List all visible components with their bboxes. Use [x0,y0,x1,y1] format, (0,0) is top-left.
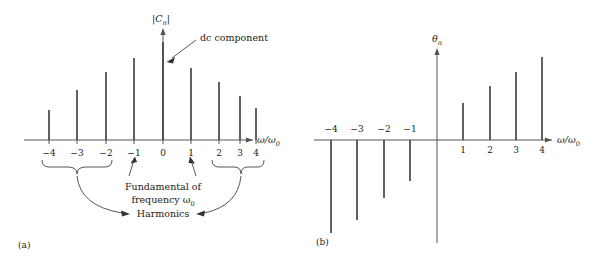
x-label-sub-b: 0 [576,140,580,148]
tick-label-b-4: 1 [460,145,466,155]
panel-a-y-axis-label: |Cn| [152,13,170,27]
brace-right-harmonics [212,160,264,174]
x-label-sub-a: 0 [276,140,280,148]
tick-label-a-0: −4 [42,148,56,158]
tick-label-a-2: −2 [99,148,112,158]
fundamental-annotation: Fundamental of frequency ω0 [125,181,203,208]
panel-a: |Cn| ω/ω0 [18,13,280,250]
tick-label-a-7: 3 [237,148,243,158]
svg-text:ω/ω0: ω/ω0 [257,134,280,148]
fundamental-line1: Fundamental of [125,181,203,192]
fundamental-line2: frequency ω0 [131,194,194,208]
figure-svg: |Cn| ω/ω0 [0,0,607,263]
panel-a-x-axis-label: ω/ω0 [257,134,280,148]
tick-label-a-8: 4 [253,148,259,158]
y-label-tail-a: | [167,13,170,25]
brace-left-harmonics [42,160,112,174]
x-label-main-a: ω/ω [257,134,276,145]
tick-label-b-3: −1 [403,124,416,134]
panel-a-stems [49,42,256,140]
harmonics-label: Harmonics [137,208,190,219]
fundamental-line2-main: frequency ω [131,194,190,205]
panel-b-y-axis [434,48,439,243]
tick-label-b-7: 4 [539,145,545,155]
tick-label-b-6: 3 [513,145,519,155]
tick-label-a-6: 2 [216,148,222,158]
tick-label-b-1: −3 [350,124,364,134]
tick-label-b-0: −4 [324,124,338,134]
tick-label-a-1: −3 [70,148,84,158]
fundamental-arrows [129,157,196,177]
tick-label-b-5: 2 [487,145,493,155]
tick-label-b-2: −2 [377,124,390,134]
panel-b-y-axis-label: θn [432,33,442,47]
dc-component-label: dc component [200,32,268,43]
y-label-sub-b: n [438,39,442,47]
panel-a-ticks [49,140,256,144]
tick-label-a-3: −1 [127,148,140,158]
dc-component-annotation: dc component [167,32,269,64]
fundamental-line2-sub: 0 [190,200,194,208]
tick-label-a-5: 1 [188,148,194,158]
panel-b: θn ω/ω0 −4 [314,33,580,247]
x-label-main-b: ω/ω [557,134,576,145]
panel-a-tick-labels: −4 −3 −2 −1 0 1 2 3 4 [42,148,259,158]
panel-b-x-axis-label: ω/ω0 [557,134,580,148]
svg-text:ω/ω0: ω/ω0 [557,134,580,148]
panel-label-b: (b) [316,237,329,247]
svg-text:|Cn|: |Cn| [152,13,170,27]
figure-container: |Cn| ω/ω0 [0,0,607,263]
svg-text:θn: θn [432,33,442,47]
tick-label-a-4: 0 [160,148,166,158]
panel-label-a: (a) [18,240,30,250]
